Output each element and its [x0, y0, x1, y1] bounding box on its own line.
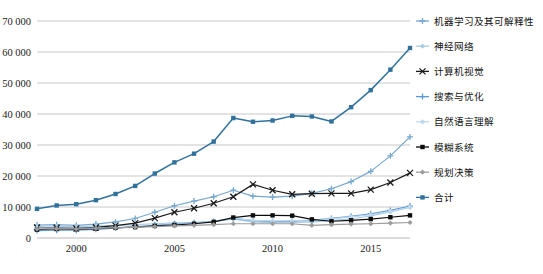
data-point-marker	[407, 204, 412, 209]
data-point-marker	[270, 118, 274, 122]
legend-item-5[interactable]: 模糊系统	[416, 142, 474, 153]
data-point-marker	[270, 194, 276, 200]
data-point-marker	[171, 203, 177, 209]
data-point-marker	[420, 119, 425, 124]
data-point-marker	[408, 46, 412, 50]
y-axis-tick-label: 60 000	[2, 47, 31, 58]
legend-item-label: 自然语言理解	[434, 116, 494, 127]
data-point-marker	[408, 213, 412, 217]
data-point-marker	[420, 195, 424, 199]
data-point-marker	[420, 94, 426, 100]
data-point-marker	[251, 120, 255, 124]
data-point-marker	[250, 193, 256, 199]
data-point-marker	[35, 207, 39, 211]
x-axis-tick-label: 2000	[66, 243, 87, 254]
data-point-marker	[329, 119, 333, 123]
line-chart: 010 00020 00030 00040 00050 00060 00070 …	[0, 0, 543, 274]
data-point-marker	[231, 221, 236, 226]
data-point-marker	[211, 139, 215, 143]
data-point-marker	[172, 160, 176, 164]
x-axis-tick-label: 2005	[164, 243, 185, 254]
data-point-marker	[388, 215, 392, 219]
data-point-marker	[368, 221, 373, 226]
data-point-marker	[94, 198, 98, 202]
data-point-marker	[211, 194, 217, 200]
data-point-marker	[153, 171, 157, 175]
data-point-marker	[113, 192, 117, 196]
y-axis-tick-label: 10 000	[2, 202, 31, 213]
data-point-marker	[133, 184, 137, 188]
data-point-marker	[290, 213, 294, 217]
data-point-marker	[74, 202, 78, 206]
data-point-marker	[231, 215, 235, 219]
data-point-marker	[349, 105, 353, 109]
series-0	[34, 134, 413, 228]
data-point-marker	[270, 213, 274, 217]
data-point-marker	[420, 18, 426, 24]
data-point-marker	[407, 170, 413, 176]
data-point-marker	[420, 145, 424, 149]
data-point-marker	[152, 209, 158, 215]
data-point-marker	[420, 44, 425, 49]
data-point-marker	[231, 116, 235, 120]
data-point-marker	[54, 203, 58, 207]
data-point-marker	[369, 88, 373, 92]
data-point-marker	[387, 180, 393, 186]
series-line	[37, 48, 410, 209]
legend-item-label: 机器学习及其可解释性	[434, 16, 534, 27]
y-axis-tick-label: 20 000	[2, 171, 31, 182]
legend-item-2[interactable]: 计算机视觉	[416, 66, 484, 77]
legend-item-7[interactable]: 合计	[416, 192, 454, 203]
legend-item-0[interactable]: 机器学习及其可解释性	[416, 16, 534, 27]
y-axis-tick-label: 30 000	[2, 140, 31, 151]
legend-item-label: 模糊系统	[434, 142, 474, 153]
legend-item-label: 计算机视觉	[434, 66, 484, 77]
legend-item-3[interactable]: 搜索与优化	[416, 91, 484, 102]
y-axis-tick-label: 50 000	[2, 78, 31, 89]
x-axis-tick-label: 2015	[360, 243, 381, 254]
y-axis-tick-label: 0	[26, 233, 31, 244]
legend-item-label: 合计	[434, 192, 454, 203]
x-axis-tick-label: 2010	[262, 243, 283, 254]
data-point-marker	[407, 220, 412, 225]
series-7	[35, 46, 412, 211]
data-point-marker	[290, 114, 294, 118]
data-point-marker	[192, 151, 196, 155]
data-point-marker	[230, 187, 236, 193]
data-point-marker	[310, 217, 314, 221]
y-axis-tick-label: 40 000	[2, 109, 31, 120]
data-point-marker	[230, 194, 236, 200]
y-axis-tick-label: 70 000	[2, 16, 31, 27]
legend-item-label: 规划决策	[434, 167, 474, 178]
data-point-marker	[191, 198, 197, 204]
legend-item-1[interactable]: 神经网络	[416, 41, 474, 52]
data-point-marker	[348, 179, 354, 185]
data-point-marker	[250, 181, 256, 187]
chart-container: 010 00020 00030 00040 00050 00060 00070 …	[0, 0, 543, 274]
legend-item-label: 搜索与优化	[434, 91, 484, 102]
legend-item-label: 神经网络	[434, 41, 474, 52]
legend-item-4[interactable]: 自然语言理解	[416, 116, 494, 127]
data-point-marker	[309, 223, 314, 228]
data-point-marker	[388, 67, 392, 71]
data-point-marker	[420, 170, 425, 175]
legend-item-6[interactable]: 规划决策	[416, 167, 474, 178]
data-point-marker	[369, 217, 373, 221]
series-1	[34, 205, 412, 230]
data-point-marker	[251, 213, 255, 217]
data-point-marker	[310, 114, 314, 118]
data-point-marker	[388, 221, 393, 226]
